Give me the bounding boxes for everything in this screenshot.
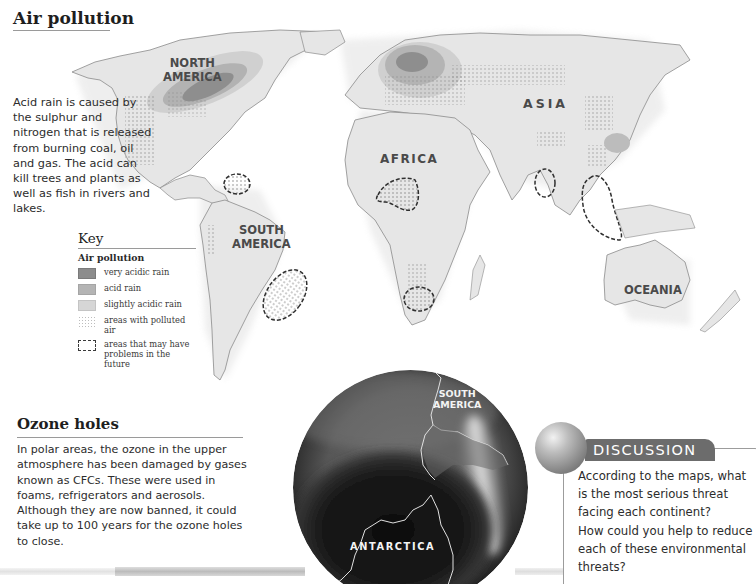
discussion-question-2: How could you help to reduce each of the… <box>578 522 756 577</box>
asia-label: ASIA <box>523 97 568 111</box>
oceania-label: OCEANIA <box>624 283 682 297</box>
globe-south-america-label: SOUTH AMERICA <box>433 388 481 410</box>
ozone-heading-rule <box>17 437 243 438</box>
oceania-landmass <box>604 240 690 308</box>
ozone-globe: SOUTH AMERICA ANTARCTICA <box>293 370 528 584</box>
ozone-holes-heading: Ozone holes <box>17 415 119 433</box>
slightly-acidic-rain-swatch <box>78 300 96 311</box>
legend-item-slightly-acidic-rain: slightly acidic rain <box>78 299 198 311</box>
antarctica-label: ANTARCTICA <box>350 540 435 554</box>
north-america-label: NORTH AMERICA <box>163 56 222 84</box>
legend-rule <box>78 248 196 249</box>
africa-label: AFRICA <box>380 152 438 166</box>
south-america-label: SOUTH AMERICA <box>232 223 291 251</box>
legend-item-acid-rain: acid rain <box>78 283 198 295</box>
acid-rain-description: Acid rain is caused by the sulphur and n… <box>13 95 153 217</box>
legend-item-future-problems: areas that may have problems in the futu… <box>78 339 198 369</box>
bottom-divider-mid <box>115 567 305 576</box>
legend-item-very-acidic-rain: very acidic rain <box>78 267 198 279</box>
ozone-description: In polar areas, the ozone in the upper a… <box>17 442 249 549</box>
map-legend: Key Air pollution very acidic rain acid … <box>78 230 198 369</box>
legend-title: Key <box>78 230 198 246</box>
polluted-air-dots-swatch <box>78 316 96 327</box>
future-problems-dashed-swatch <box>78 340 96 351</box>
discussion-title: DISCUSSION <box>593 440 696 460</box>
very-acidic-rain-swatch <box>78 268 96 279</box>
discussion-question-1: According to the maps, what is the most … <box>578 467 756 522</box>
legend-item-polluted-air: areas with polluted air <box>78 315 198 335</box>
legend-subtitle: Air pollution <box>78 252 198 263</box>
acid-rain-swatch <box>78 284 96 295</box>
